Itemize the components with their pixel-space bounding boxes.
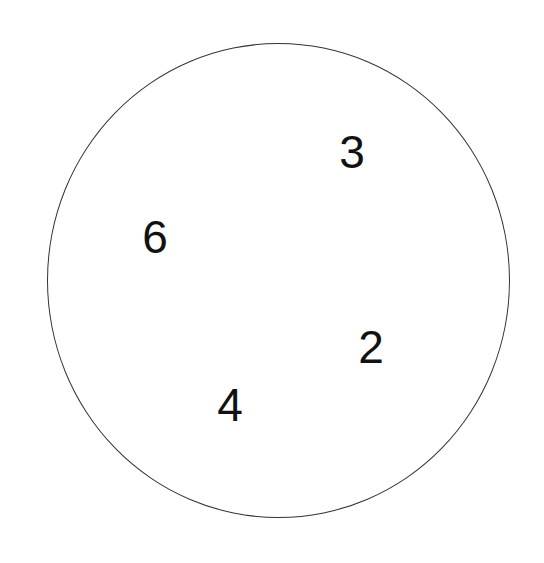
number-6: 6 [142,214,168,260]
number-3: 3 [339,129,365,175]
outer-circle [47,43,510,518]
number-2: 2 [358,324,384,370]
number-4: 4 [217,382,243,428]
